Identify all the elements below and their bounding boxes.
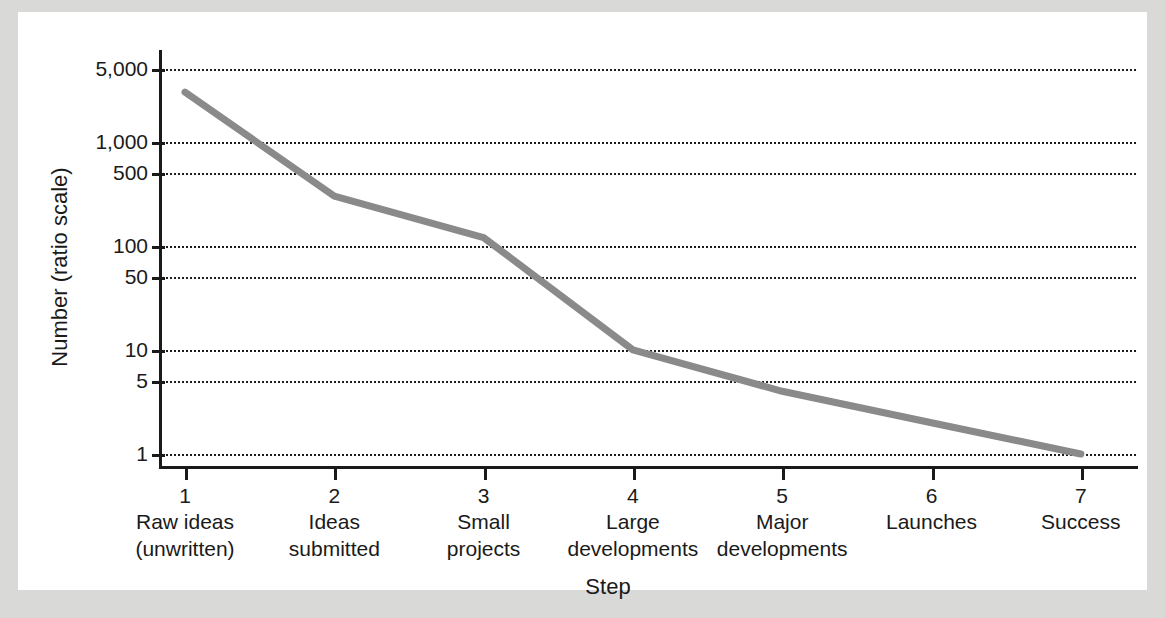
x-tick-caption-line: Launches bbox=[886, 508, 977, 535]
y-tick-label-1000: 1,000 bbox=[95, 130, 148, 154]
x-tick-mark-5 bbox=[782, 467, 785, 480]
x-tick-caption-3: Smallprojects bbox=[447, 508, 521, 562]
y-axis-tick-labels: 5,0001,000500100501051 bbox=[18, 12, 148, 618]
x-tick-number-2: 2 bbox=[328, 484, 340, 508]
y-tick-label-10: 10 bbox=[125, 338, 148, 362]
y-tick-mark-0 bbox=[152, 69, 165, 72]
x-tick-mark-7 bbox=[1081, 467, 1084, 480]
y-tick-mark-3 bbox=[152, 246, 165, 249]
x-tick-caption-line: Large bbox=[568, 508, 699, 535]
gridline-1000 bbox=[161, 142, 1136, 144]
x-tick-caption-line: Ideas bbox=[289, 508, 380, 535]
x-tick-mark-1 bbox=[185, 467, 188, 480]
x-tick-number-7: 7 bbox=[1075, 484, 1087, 508]
x-tick-number-5: 5 bbox=[776, 484, 788, 508]
x-tick-number-1: 1 bbox=[179, 484, 191, 508]
x-tick-caption-line: submitted bbox=[289, 535, 380, 562]
gridline-5 bbox=[161, 381, 1136, 383]
y-tick-label-5000: 5,000 bbox=[95, 57, 148, 81]
x-tick-caption-line: projects bbox=[447, 535, 521, 562]
x-tick-caption-line: developments bbox=[568, 535, 699, 562]
chart-panel: 5,0001,000500100501051 1Raw ideas(unwrit… bbox=[18, 12, 1147, 590]
x-tick-caption-7: Success bbox=[1041, 508, 1120, 535]
y-tick-label-1: 1 bbox=[136, 442, 148, 466]
y-tick-label-5: 5 bbox=[136, 369, 148, 393]
y-tick-mark-4 bbox=[152, 277, 165, 280]
y-tick-label-500: 500 bbox=[113, 161, 148, 185]
y-tick-label-50: 50 bbox=[125, 265, 148, 289]
x-tick-number-4: 4 bbox=[627, 484, 639, 508]
x-axis-title: Step bbox=[585, 574, 630, 600]
x-tick-number-6: 6 bbox=[926, 484, 938, 508]
x-tick-mark-6 bbox=[932, 467, 935, 480]
x-tick-mark-4 bbox=[633, 467, 636, 480]
y-axis-title: Number (ratio scale) bbox=[47, 167, 73, 366]
x-tick-caption-line: (unwritten) bbox=[135, 535, 234, 562]
gridline-50 bbox=[161, 277, 1136, 279]
x-tick-caption-line: Small bbox=[447, 508, 521, 535]
x-tick-caption-4: Largedevelopments bbox=[568, 508, 699, 562]
x-tick-caption-line: Raw ideas bbox=[135, 508, 234, 535]
gridline-5000 bbox=[161, 69, 1136, 71]
x-tick-caption-6: Launches bbox=[886, 508, 977, 535]
x-tick-caption-line: Success bbox=[1041, 508, 1120, 535]
y-tick-mark-7 bbox=[152, 454, 165, 457]
x-tick-caption-line: developments bbox=[717, 535, 848, 562]
x-tick-mark-2 bbox=[334, 467, 337, 480]
x-tick-caption-5: Majordevelopments bbox=[717, 508, 848, 562]
y-tick-mark-2 bbox=[152, 173, 165, 176]
x-tick-caption-1: Raw ideas(unwritten) bbox=[135, 508, 234, 562]
x-tick-mark-3 bbox=[484, 467, 487, 480]
figure-root: 5,0001,000500100501051 1Raw ideas(unwrit… bbox=[0, 0, 1165, 618]
plot-area bbox=[161, 52, 1136, 467]
x-axis-line bbox=[159, 466, 1138, 469]
gridline-10 bbox=[161, 350, 1136, 352]
y-tick-mark-5 bbox=[152, 350, 165, 353]
gridline-100 bbox=[161, 246, 1136, 248]
y-axis-line bbox=[159, 50, 162, 469]
x-tick-caption-line: Major bbox=[717, 508, 848, 535]
x-tick-caption-2: Ideassubmitted bbox=[289, 508, 380, 562]
y-tick-mark-1 bbox=[152, 142, 165, 145]
y-tick-label-100: 100 bbox=[113, 234, 148, 258]
y-tick-mark-6 bbox=[152, 381, 165, 384]
gridline-1 bbox=[161, 454, 1136, 456]
gridline-500 bbox=[161, 173, 1136, 175]
x-tick-number-3: 3 bbox=[478, 484, 490, 508]
